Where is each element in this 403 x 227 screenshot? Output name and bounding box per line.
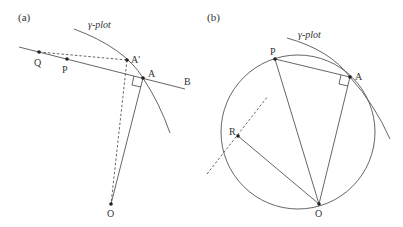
point-p-a bbox=[65, 57, 69, 61]
dashed-aprime-o bbox=[111, 60, 127, 204]
gamma-plot-label-a: γ-plot bbox=[88, 19, 111, 30]
panel-b-label: (b) bbox=[207, 11, 220, 24]
point-o-a bbox=[109, 202, 113, 206]
point-a-a bbox=[141, 76, 145, 80]
dashed-q-aprime bbox=[39, 52, 127, 60]
label-a-b: A bbox=[355, 71, 363, 82]
figure: (a) γ-plot Q P A' A B O (b) γ-plot bbox=[0, 0, 403, 227]
point-r bbox=[236, 134, 240, 138]
point-q bbox=[37, 50, 41, 54]
gamma-plot-label-b: γ-plot bbox=[298, 29, 321, 40]
line-a-o bbox=[111, 78, 143, 204]
label-p-b: P bbox=[270, 46, 276, 57]
line-r-o-b bbox=[238, 136, 319, 204]
label-p-a: P bbox=[62, 64, 68, 75]
panel-a-label: (a) bbox=[18, 11, 31, 24]
panel-a: (a) γ-plot Q P A' A B O bbox=[18, 11, 191, 219]
label-a-a: A bbox=[148, 68, 156, 79]
tangent-line-a bbox=[19, 47, 185, 89]
label-r: R bbox=[229, 126, 236, 137]
gamma-plot-curve-a bbox=[74, 29, 170, 133]
point-a-b bbox=[348, 75, 352, 79]
label-aprime: A' bbox=[131, 54, 140, 65]
label-b: B bbox=[184, 76, 191, 87]
label-o-a: O bbox=[107, 208, 114, 219]
point-o-b bbox=[317, 202, 321, 206]
label-q: Q bbox=[34, 57, 42, 68]
point-p-b bbox=[273, 57, 277, 61]
panel-b: (b) γ-plot P A R O bbox=[207, 11, 390, 219]
point-aprime bbox=[125, 58, 129, 62]
line-p-a-b bbox=[275, 59, 350, 77]
line-a-o-b bbox=[319, 77, 350, 204]
label-o-b: O bbox=[315, 208, 322, 219]
line-p-o-b bbox=[275, 59, 319, 204]
